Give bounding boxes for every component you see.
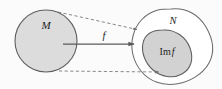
function-mapping-diagram: M N Imf f (0, 0, 222, 89)
diagram-canvas: M N Imf f (0, 0, 222, 89)
domain-set-M-group: M (15, 10, 77, 72)
image-label-prefix: Im (160, 46, 171, 57)
codomain-set-N-label: N (168, 15, 177, 26)
domain-set-M-label: M (40, 19, 51, 31)
map-arrow-f-label: f (103, 30, 108, 41)
image-set-imf-label: Imf (160, 46, 176, 57)
